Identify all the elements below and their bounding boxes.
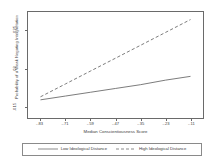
solid-line-icon (38, 147, 58, 151)
plot-area (27, 11, 204, 119)
x-axis-tick-label: -.11 (180, 122, 202, 126)
series-line-high-ideological-distance (40, 20, 190, 97)
x-axis-tick-label: -.23 (155, 122, 177, 126)
x-axis-tick-label: -.59 (79, 122, 101, 126)
x-axis-tick-label: -.47 (105, 122, 127, 126)
y-axis-tick-label: .025 (13, 21, 17, 39)
chart-legend: Low Ideological Distance High Ideologica… (22, 143, 202, 156)
x-axis-tick-label: -.71 (54, 122, 76, 126)
legend-item-high-ideological-distance[interactable]: High Ideological Distance (116, 147, 186, 151)
y-axis-tick-label: .02 (13, 60, 17, 78)
x-axis-title: Median Conscientiousness Score (27, 130, 204, 134)
x-axis-tick-label: -.83 (29, 122, 51, 126)
chart-figure: Probability of a Weak Negating Interpret… (0, 0, 210, 161)
legend-label: High Ideological Distance (139, 147, 186, 151)
series-line-low-ideological-distance (40, 76, 190, 99)
dashed-line-icon (116, 147, 136, 151)
x-axis-tick-label: -.35 (130, 122, 152, 126)
plot-lines (28, 12, 203, 118)
legend-item-low-ideological-distance[interactable]: Low Ideological Distance (38, 147, 107, 151)
legend-label: Low Ideological Distance (61, 147, 107, 151)
y-axis-tick-label: .015 (13, 98, 17, 116)
